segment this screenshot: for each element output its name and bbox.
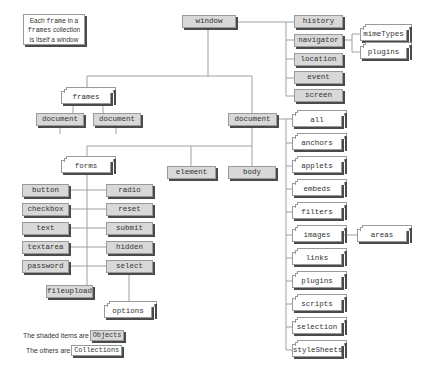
node-element: element bbox=[167, 166, 216, 179]
node-navigator: navigator bbox=[294, 34, 343, 47]
object-model-diagram: Each frame in a frames collection is its… bbox=[0, 0, 428, 380]
legend-collections: The others are Collections bbox=[26, 345, 122, 356]
note-line-1: Each frame in a bbox=[24, 17, 84, 26]
node-body: body bbox=[228, 166, 276, 179]
node-event: event bbox=[294, 71, 343, 84]
node-links: links bbox=[292, 252, 342, 265]
node-options: options bbox=[104, 305, 152, 318]
node-scripts: scripts bbox=[292, 298, 342, 311]
node-text: text bbox=[22, 222, 69, 235]
node-textarea: textarea bbox=[22, 241, 69, 254]
node-anchors: anchors bbox=[292, 137, 342, 150]
node-hidden: hidden bbox=[106, 241, 153, 254]
node-images: images bbox=[292, 229, 342, 242]
node-frame-document-1: document bbox=[36, 113, 84, 126]
node-embeds: embeds bbox=[292, 183, 342, 196]
legend-objects-swatch: Objects bbox=[90, 330, 125, 341]
node-document: document bbox=[228, 113, 277, 126]
node-frames: frames bbox=[61, 91, 111, 104]
node-reset: reset bbox=[106, 203, 153, 216]
node-history: history bbox=[294, 15, 343, 28]
node-selection: selection bbox=[292, 321, 342, 334]
node-button: button bbox=[22, 184, 69, 197]
node-fileupload: fileupload bbox=[46, 285, 93, 298]
node-navigator-plugins: plugins bbox=[360, 46, 407, 59]
frames-note: Each frame in a frames collection is its… bbox=[23, 14, 85, 45]
node-select: select bbox=[106, 260, 153, 273]
note-line-2: frames collection bbox=[24, 26, 84, 35]
node-window: window bbox=[182, 15, 236, 28]
legend-objects: The shaded items are Objects bbox=[23, 330, 124, 341]
node-areas: areas bbox=[357, 229, 407, 242]
node-password: password bbox=[22, 260, 69, 273]
node-applets: applets bbox=[292, 160, 342, 173]
node-checkbox: checkbox bbox=[22, 203, 69, 216]
node-all: all bbox=[292, 114, 342, 127]
node-radio: radio bbox=[106, 184, 153, 197]
node-location: location bbox=[294, 53, 343, 66]
node-submit: submit bbox=[106, 222, 153, 235]
node-mimetypes: mimeTypes bbox=[360, 28, 407, 41]
node-frame-document-2: document bbox=[93, 113, 141, 126]
node-forms: forms bbox=[61, 160, 111, 173]
node-stylesheets: styleSheets bbox=[292, 344, 342, 357]
node-plugins: plugins bbox=[292, 275, 342, 288]
node-filters: filters bbox=[292, 206, 342, 219]
legend-collections-swatch: Collections bbox=[71, 345, 122, 356]
legend-collections-text: The others are bbox=[26, 347, 70, 354]
legend-objects-text: The shaded items are bbox=[23, 332, 89, 339]
note-line-3: is itself a window bbox=[24, 36, 84, 44]
node-screen: screen bbox=[294, 89, 343, 102]
